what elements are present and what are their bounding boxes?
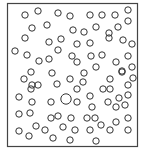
particle-circle [87, 12, 93, 18]
particle-circle [112, 12, 118, 18]
particle-circle [125, 115, 131, 121]
particle-circle [107, 76, 113, 82]
particle-circle [113, 119, 119, 125]
particle-circle [42, 127, 48, 133]
particle-circle [22, 12, 28, 18]
particle-circle [28, 86, 34, 92]
particle-circle [122, 102, 128, 108]
particle-circle [81, 29, 87, 35]
particle-circle [24, 52, 30, 58]
particle-circle [46, 56, 52, 62]
particle-circle [99, 12, 105, 18]
particle-circle [48, 99, 54, 105]
particle-circle [93, 24, 99, 30]
particle-circle [55, 10, 61, 16]
particle-circle [35, 82, 41, 88]
particle-circle [125, 82, 131, 88]
particle-circle [27, 110, 33, 116]
particle-circle [99, 52, 105, 58]
particle-circle [125, 53, 131, 59]
particle-circle [49, 70, 55, 76]
particle-circle [44, 22, 50, 28]
particle-circle [16, 94, 22, 100]
particle-circle [129, 64, 135, 70]
particle-circle [129, 41, 135, 47]
particle-circle [26, 133, 32, 139]
particle-circle [87, 93, 93, 99]
particle-circle [74, 99, 80, 105]
particle-circle [74, 86, 80, 92]
particle-circle [68, 115, 74, 121]
particle-circle [125, 7, 131, 13]
particle-circle [84, 115, 90, 121]
particle-circle [33, 123, 39, 129]
particle-circle [115, 24, 121, 30]
particle-circle [16, 128, 22, 134]
particle-circle [93, 138, 99, 144]
particle-circle [74, 59, 80, 65]
large-particle-circle [61, 94, 71, 104]
particle-circle [113, 59, 119, 65]
particle-circle [29, 25, 35, 31]
particle-circle [55, 113, 61, 119]
particle-circle [113, 104, 119, 110]
particle-circle [28, 69, 34, 75]
particle-circle [58, 36, 64, 42]
particle-circle [29, 99, 35, 105]
particle-circle [120, 37, 126, 43]
particle-circle [130, 75, 136, 81]
particle-circle [107, 127, 113, 133]
particle-circle [74, 41, 80, 47]
particle-circle [125, 18, 131, 24]
particle-circle [35, 8, 41, 14]
particle-circle [100, 86, 106, 92]
particles-group [12, 7, 136, 144]
particle-circle [105, 99, 111, 105]
particle-circle [67, 13, 73, 19]
particle-diagram [0, 0, 146, 156]
particle-circle [55, 47, 61, 53]
particle-circle [72, 127, 78, 133]
particle-circle [69, 53, 75, 59]
particle-circle [87, 127, 93, 133]
particle-circle [16, 111, 22, 117]
particle-circle [87, 40, 93, 46]
particle-circle [21, 76, 27, 82]
particle-circle [50, 135, 56, 141]
particle-circle [88, 53, 94, 59]
particle-circle [92, 115, 98, 121]
particle-circle [67, 137, 73, 143]
particle-circle [70, 27, 76, 33]
particle-circle [54, 81, 60, 87]
particle-circle [93, 64, 99, 70]
particle-circle [36, 58, 42, 64]
particle-circle [107, 86, 113, 92]
particle-circle [81, 70, 87, 76]
particle-circle [48, 115, 54, 121]
particle-circle [125, 92, 131, 98]
particle-circle [12, 48, 18, 54]
particle-circle [60, 124, 66, 130]
particle-circle [116, 95, 122, 101]
particle-circle [89, 104, 95, 110]
particle-circle [80, 79, 86, 85]
particle-circle [46, 39, 52, 45]
particle-circle [125, 127, 131, 133]
particle-circle [67, 76, 73, 82]
particle-circle [22, 35, 28, 41]
particle-circle [98, 122, 104, 128]
